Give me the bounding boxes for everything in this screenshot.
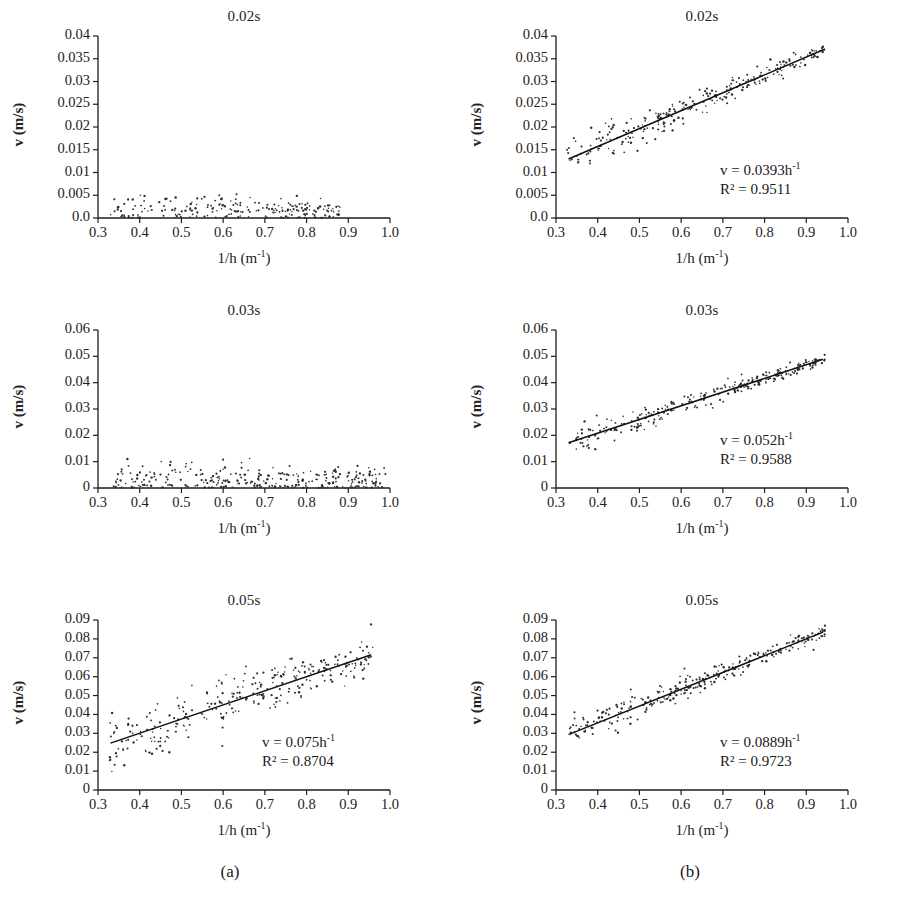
x-tick-label: 0.7 <box>698 494 748 511</box>
y-tick-label: 0.08 <box>20 629 90 646</box>
y-tick-label: 0.06 <box>20 320 90 337</box>
x-tick-label: 1.0 <box>365 224 415 241</box>
equation-text: v = 0.052h-1 <box>720 430 793 450</box>
y-tick-label: 0.05 <box>20 346 90 363</box>
x-tick-label: 0.5 <box>156 224 206 241</box>
y-tick-label: 0.02 <box>478 742 548 759</box>
x-tick-label: 1.0 <box>823 796 873 813</box>
x-tick-label: 0.9 <box>323 796 373 813</box>
x-axis-label: 1/h (m-1) <box>622 820 782 839</box>
chart-panel-a-003: 0.03sv (m/s)00.010.020.030.040.050.060.3… <box>0 0 914 900</box>
x-axis-label-tail: ) <box>265 822 270 838</box>
x-tick-label: 0.8 <box>282 494 332 511</box>
x-axis-label-text: 1/h (m <box>676 822 716 838</box>
x-tick-label: 0.4 <box>573 494 623 511</box>
y-tick-label: 0 <box>20 478 90 495</box>
x-tick-label: 0.4 <box>573 796 623 813</box>
axes <box>551 620 848 795</box>
equation-body: v = 0.0889h <box>720 734 792 750</box>
equation-text: v = 0.075h-1 <box>262 732 335 752</box>
equation-body: v = 0.075h <box>262 734 327 750</box>
y-tick-label: 0.05 <box>478 346 548 363</box>
y-tick-label: 0.06 <box>478 667 548 684</box>
x-tick-label: 0.8 <box>282 224 332 241</box>
equation-exponent: -1 <box>327 732 335 743</box>
regression-line <box>569 49 826 159</box>
panel-title: 0.03s <box>184 302 304 319</box>
scatter-points <box>569 625 826 739</box>
y-tick-label: 0.025 <box>478 94 548 111</box>
x-axis-label-text: 1/h (m <box>676 520 716 536</box>
x-tick-label: 0.5 <box>156 494 206 511</box>
y-tick-label: 0.02 <box>20 117 90 134</box>
chart-panel-b-003: 0.03sv (m/s)00.010.020.030.040.050.060.3… <box>0 0 914 900</box>
panel-title: 0.05s <box>642 592 762 609</box>
x-tick-label: 0.6 <box>198 494 248 511</box>
x-tick-label: 0.3 <box>531 224 581 241</box>
x-axis-label: 1/h (m-1) <box>164 820 324 839</box>
y-tick-label: 0.05 <box>20 686 90 703</box>
equation-text: v = 0.0889h-1 <box>720 732 801 752</box>
x-axis-label-exponent: -1 <box>715 248 723 259</box>
x-tick-label: 0.7 <box>698 224 748 241</box>
axes <box>93 36 390 223</box>
y-tick-label: 0 <box>20 780 90 797</box>
x-axis-label: 1/h (m-1) <box>164 248 324 267</box>
chart-panel-b-002: 0.02sv (m/s)0.00.0050.010.0150.020.0250.… <box>0 0 914 900</box>
x-tick-label: 0.6 <box>656 224 706 241</box>
y-tick-label: 0.09 <box>478 610 548 627</box>
plot-canvas-b-002 <box>0 0 914 900</box>
x-axis-label-text: 1/h (m <box>218 822 258 838</box>
x-axis-label-tail: ) <box>265 250 270 266</box>
y-tick-label: 0.03 <box>478 399 548 416</box>
panel-title: 0.05s <box>184 592 304 609</box>
x-axis-label: 1/h (m-1) <box>164 518 324 537</box>
y-tick-label: 0.01 <box>478 452 548 469</box>
x-axis-label-tail: ) <box>723 822 728 838</box>
scatter-points <box>569 354 826 451</box>
x-tick-label: 0.8 <box>740 224 790 241</box>
y-tick-label: 0.02 <box>478 117 548 134</box>
regression-annotation: v = 0.0393h-1R² = 0.9511 <box>720 160 801 199</box>
y-tick-label: 0.04 <box>478 26 548 43</box>
regression-line <box>569 632 823 734</box>
x-axis-label-exponent: -1 <box>715 518 723 529</box>
x-tick-label: 0.4 <box>115 494 165 511</box>
r-squared-text: R² = 0.9723 <box>720 752 801 771</box>
x-tick-label: 0.9 <box>781 494 831 511</box>
x-axis-label-tail: ) <box>723 520 728 536</box>
column-caption-a: (a) <box>190 862 270 882</box>
y-tick-label: 0.005 <box>20 185 90 202</box>
x-tick-label: 1.0 <box>823 494 873 511</box>
x-axis-label-exponent: -1 <box>715 820 723 831</box>
y-tick-label: 0.03 <box>478 72 548 89</box>
x-axis-label-text: 1/h (m <box>218 250 258 266</box>
x-tick-label: 0.8 <box>740 796 790 813</box>
y-tick-label: 0.09 <box>20 610 90 627</box>
y-tick-label: 0.04 <box>20 704 90 721</box>
x-tick-label: 0.4 <box>573 224 623 241</box>
y-tick-label: 0.04 <box>478 704 548 721</box>
x-tick-label: 0.4 <box>115 796 165 813</box>
scatter-points <box>566 46 825 165</box>
y-axis-label: v (m/s) <box>10 75 27 175</box>
y-axis-label: v (m/s) <box>468 357 485 457</box>
x-tick-label: 0.7 <box>240 796 290 813</box>
chart-panel-b-005: 0.05sv (m/s)00.010.020.030.040.050.060.0… <box>0 0 914 900</box>
y-tick-label: 0.015 <box>20 140 90 157</box>
x-tick-label: 0.3 <box>73 796 123 813</box>
scatter-points <box>113 458 387 489</box>
regression-annotation: v = 0.052h-1R² = 0.9588 <box>720 430 793 469</box>
plot-canvas-a-003 <box>0 0 914 900</box>
x-tick-label: 0.9 <box>781 796 831 813</box>
y-tick-label: 0.04 <box>20 26 90 43</box>
x-tick-label: 1.0 <box>365 796 415 813</box>
x-tick-label: 0.5 <box>614 796 664 813</box>
y-tick-label: 0.035 <box>478 49 548 66</box>
x-tick-label: 0.6 <box>198 224 248 241</box>
x-axis-label: 1/h (m-1) <box>622 518 782 537</box>
x-tick-label: 0.8 <box>282 796 332 813</box>
r-squared-text: R² = 0.9511 <box>720 180 801 199</box>
x-tick-label: 0.9 <box>323 494 373 511</box>
x-tick-label: 0.7 <box>240 494 290 511</box>
